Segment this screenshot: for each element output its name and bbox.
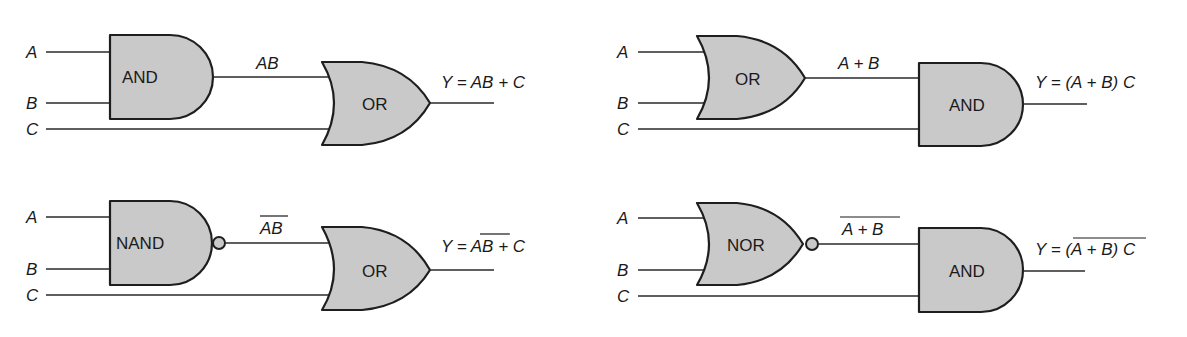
circuit-bottom-left: A B C NAND AB OR Y = AB + C xyxy=(25,201,526,310)
inverter-bubble-icon xyxy=(806,238,818,250)
input-label-c: C xyxy=(26,286,39,305)
input-label-c: C xyxy=(26,120,39,139)
inverter-bubble-icon xyxy=(213,237,225,249)
intermediate-label: A + B xyxy=(841,220,883,239)
input-label-b: B xyxy=(26,94,37,113)
intermediate-label: A + B xyxy=(837,54,879,73)
input-label-a: A xyxy=(616,209,628,228)
input-label-b: B xyxy=(617,94,628,113)
input-label-c: C xyxy=(617,287,630,306)
input-label-a: A xyxy=(25,208,37,227)
logic-circuits-diagram: A B C AND AB OR Y = AB + C A B C OR A + … xyxy=(0,0,1187,337)
input-label-a: A xyxy=(616,43,628,62)
gate2-label: OR xyxy=(362,95,388,114)
intermediate-label: AB xyxy=(259,219,283,238)
gate1-label: NOR xyxy=(727,236,765,255)
input-label-b: B xyxy=(26,260,37,279)
input-label-c: C xyxy=(617,120,630,139)
gate1-label: AND xyxy=(122,68,158,87)
intermediate-label: AB xyxy=(255,54,279,73)
output-expression: Y = AB + C xyxy=(441,73,526,92)
circuit-top-right: A B C OR A + B AND Y = (A + B) C xyxy=(616,36,1136,146)
output-expression: Y = (A + B) C xyxy=(1035,73,1136,92)
gate1-label: OR xyxy=(735,70,761,89)
gate2-label: AND xyxy=(949,262,985,281)
output-expression: Y = (A + B) C xyxy=(1035,240,1136,259)
gate2-label: AND xyxy=(949,96,985,115)
output-expression: Y = AB + C xyxy=(441,237,526,256)
circuit-bottom-right: A B C NOR A + B AND Y = (A + B) C xyxy=(616,203,1146,312)
gate1-label: NAND xyxy=(116,234,164,253)
circuit-top-left: A B C AND AB OR Y = AB + C xyxy=(25,35,526,145)
input-label-b: B xyxy=(617,261,628,280)
gate2-label: OR xyxy=(362,262,388,281)
input-label-a: A xyxy=(25,43,37,62)
